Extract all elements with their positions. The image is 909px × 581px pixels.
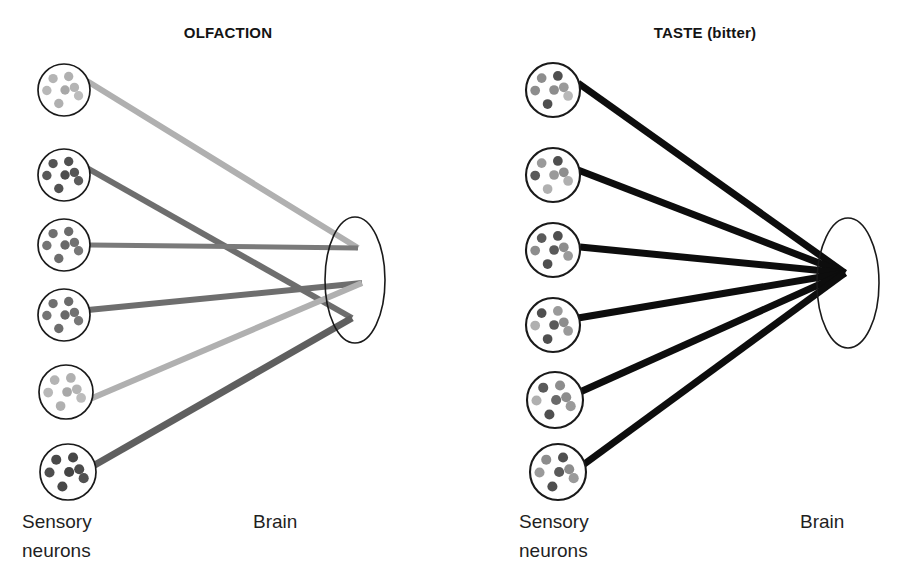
olfaction-brain-label: Brain <box>253 511 297 532</box>
taste-receptor-dot <box>564 464 574 474</box>
taste-receptor-dot <box>559 167 569 177</box>
olfaction-receptor-dot <box>74 316 83 325</box>
taste-receptor-dot <box>563 251 573 261</box>
olfaction-sensory-neuron-6 <box>40 444 96 500</box>
olfaction-receptor-dot <box>68 452 78 462</box>
taste-receptor-dot <box>543 184 553 194</box>
taste-receptor-dot <box>551 395 561 405</box>
taste-receptor-dot <box>566 401 576 411</box>
olfaction-receptor-dot <box>60 170 69 179</box>
olfaction-sensory-neurons-label-line2: neurons <box>22 540 91 561</box>
taste-receptor-dot <box>559 317 569 327</box>
taste-sensory-neurons-label-line1: Sensory <box>519 511 589 532</box>
olfaction-sensory-neuron-3 <box>38 219 90 271</box>
olfaction-sensory-neuron-group <box>38 64 96 500</box>
olfaction-receptor-dot <box>54 254 63 263</box>
olfaction-receptor-dot <box>42 86 51 95</box>
taste-receptor-dot <box>563 176 573 186</box>
olfaction-receptor-dot <box>64 157 73 166</box>
taste-receptor-dot <box>537 233 547 243</box>
olfaction-receptor-dot <box>74 176 83 185</box>
taste-receptor-dot <box>563 326 573 336</box>
taste-receptor-dot <box>553 306 563 316</box>
olfaction-receptor-dot <box>62 387 72 397</box>
taste-receptor-dot <box>555 380 565 390</box>
olfaction-receptor-dot <box>42 241 51 250</box>
olfaction-receptor-dot <box>60 310 69 319</box>
taste-receptor-dot <box>544 410 554 420</box>
taste-receptor-dot <box>558 452 568 462</box>
figure-root: OLFACTION TASTE (bitter) Sensory neurons… <box>0 0 909 581</box>
taste-connection-lines <box>578 83 845 465</box>
olfaction-sensory-neuron-4 <box>38 289 90 341</box>
olfaction-receptor-dot <box>57 482 67 492</box>
olfaction-sensory-neurons-label-line1: Sensory <box>22 511 92 532</box>
taste-receptor-dot <box>553 71 563 81</box>
olfaction-brain-ellipse <box>325 217 385 343</box>
olfaction-connection-lines <box>87 81 362 466</box>
taste-receptor-dot <box>553 156 563 166</box>
olfaction-sensory-neuron-1 <box>38 64 90 116</box>
taste-receptor-dot <box>561 392 571 402</box>
taste-receptor-dot <box>549 320 559 330</box>
taste-receptor-dot <box>530 171 540 181</box>
taste-sensory-neuron-5 <box>527 372 583 428</box>
brain-outline-olfaction <box>325 217 385 343</box>
taste-receptor-dot <box>559 82 569 92</box>
taste-receptor-dot <box>534 468 544 478</box>
olfaction-axon-o1-to-upper <box>87 81 358 248</box>
olfaction-receptor-dot <box>51 455 61 465</box>
taste-axon-t1-to-convergence <box>578 83 845 273</box>
olfaction-receptor-dot <box>72 384 82 394</box>
olfaction-receptor-dot <box>64 72 73 81</box>
taste-receptor-dot <box>537 308 547 318</box>
taste-receptor-dot <box>530 246 540 256</box>
olfaction-receptor-dot <box>48 159 57 168</box>
olfaction-receptor-dot <box>70 83 79 92</box>
neural-coding-diagram: OLFACTION TASTE (bitter) Sensory neurons… <box>0 0 909 581</box>
taste-sensory-neurons-label-line2: neurons <box>519 540 588 561</box>
olfaction-receptor-dot <box>76 393 86 403</box>
taste-receptor-dot <box>530 321 540 331</box>
olfaction-receptor-dot <box>74 91 83 100</box>
taste-receptor-dot <box>531 396 541 406</box>
taste-axon-t6-to-convergence <box>583 273 845 465</box>
olfaction-receptor-dot <box>60 240 69 249</box>
taste-receptor-dot <box>553 231 563 241</box>
olfaction-receptor-dot <box>64 297 73 306</box>
olfaction-receptor-dot <box>54 99 63 108</box>
olfaction-receptor-dot <box>56 401 66 411</box>
taste-receptor-dot <box>563 91 573 101</box>
olfaction-receptor-dot <box>48 299 57 308</box>
olfaction-sensory-neuron-2 <box>38 149 90 201</box>
taste-sensory-neuron-6 <box>530 444 586 500</box>
taste-axon-t4-to-convergence <box>578 273 845 318</box>
taste-receptor-dot <box>543 259 553 269</box>
olfaction-receptor-dot <box>64 467 74 477</box>
olfaction-receptor-dot <box>70 238 79 247</box>
olfaction-receptor-dot <box>42 171 51 180</box>
olfaction-receptor-dot <box>74 246 83 255</box>
olfaction-receptor-dot <box>42 311 51 320</box>
olfaction-receptor-dot <box>54 324 63 333</box>
taste-receptor-dot <box>543 99 553 109</box>
olfaction-receptor-dot <box>79 473 89 483</box>
taste-receptor-dot <box>559 242 569 252</box>
olfaction-receptor-dot <box>74 464 84 474</box>
taste-receptor-dot <box>547 482 557 492</box>
taste-brain-label: Brain <box>800 511 844 532</box>
olfaction-receptor-dot <box>50 375 60 385</box>
taste-receptor-dot <box>549 85 559 95</box>
taste-receptor-dot <box>543 334 553 344</box>
taste-receptor-dot <box>569 473 579 483</box>
taste-receptor-dot <box>537 73 547 83</box>
olfaction-receptor-dot <box>48 74 57 83</box>
olfaction-axon-o4-to-middle <box>88 283 362 310</box>
taste-receptor-dot <box>530 86 540 96</box>
taste-receptor-dot <box>549 170 559 180</box>
taste-receptor-dot <box>549 245 559 255</box>
taste-receptor-dot <box>554 467 564 477</box>
olfaction-receptor-dot <box>70 168 79 177</box>
olfaction-receptor-dot <box>60 85 69 94</box>
olfaction-axon-o5-to-middle <box>90 283 362 399</box>
